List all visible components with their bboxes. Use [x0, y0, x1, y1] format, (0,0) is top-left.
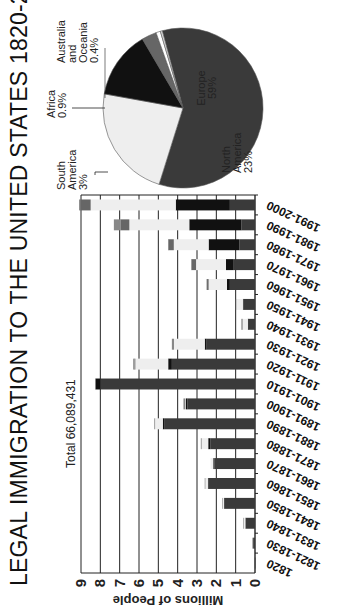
bar-segment-asia	[163, 418, 164, 429]
bar-segment-south-america	[80, 199, 90, 210]
y-tick-label: 3	[188, 579, 205, 587]
bar-segment-south-america	[192, 259, 196, 270]
bar-segment-south-america	[135, 359, 136, 370]
bar-segment-europe	[214, 458, 255, 469]
y-tick-label: 6	[130, 579, 147, 587]
bar-segment-other	[172, 339, 173, 350]
bar-segment-other	[252, 538, 253, 549]
bar-segment-europe	[211, 438, 255, 449]
bar-segment-asia	[213, 458, 214, 469]
bar-segment-asia	[208, 438, 210, 449]
bar-segment-europe	[245, 518, 255, 529]
bar-segment-other	[183, 398, 185, 409]
bar-segment-south-america	[201, 438, 202, 449]
bar-segment-south-america	[173, 339, 174, 350]
bar-segment-other	[79, 199, 80, 210]
bar-segment-asia	[208, 478, 209, 489]
bar-segment-north-america	[205, 478, 208, 489]
bar-segment-south-america	[154, 418, 155, 429]
bar-segment-europe	[224, 498, 255, 509]
bar-segment-south-america	[95, 379, 96, 390]
bar-segment-asia	[209, 239, 240, 250]
bar-segment-other	[205, 478, 206, 489]
bar-segment-europe	[100, 379, 255, 390]
bar-segment-north-america	[242, 319, 248, 330]
bar-segment-europe	[187, 398, 255, 409]
bar-segment-north-america	[185, 398, 186, 409]
bar-segment-south-america	[236, 299, 237, 310]
bar-segment-asia	[227, 279, 230, 290]
y-tick-label: 9	[72, 579, 89, 587]
y-tick-label: 0	[246, 579, 263, 587]
bar-segment-asia	[205, 339, 207, 350]
bar-segment-europe	[209, 478, 255, 489]
bar-segment-asia	[248, 319, 249, 330]
bar-segment-north-america	[211, 458, 214, 469]
pie-label-south-america: SouthAmerica3%	[55, 149, 89, 190]
y-tick-label: 1	[227, 579, 244, 587]
plot-area: 0123456789Millions of PeopleTotal 66,089…	[0, 0, 357, 608]
bar-segment-south-america	[168, 239, 173, 250]
bar-segment-europe	[248, 319, 255, 330]
bar-segment-north-america	[91, 199, 176, 210]
bar-segment-north-america	[174, 339, 205, 350]
bar-segment-europe	[207, 339, 255, 350]
bar-segment-other	[133, 359, 134, 370]
bar-segment-europe	[255, 558, 256, 569]
pie-label-africa: Africa0.9%	[45, 89, 68, 118]
bar-segment-europe	[240, 239, 255, 250]
bar-segment-europe	[234, 259, 255, 270]
bar-segment-asia	[176, 199, 230, 210]
pie-label-australia-oceania: AustraliaandOceania0.4%	[55, 19, 100, 63]
bar-segment-europe	[253, 538, 255, 549]
bar-segment-north-america	[209, 279, 227, 290]
bar-segment-other	[241, 319, 242, 330]
bar-segment-north-america	[129, 219, 189, 230]
bar-segment-asia	[226, 259, 234, 270]
total-label: Total 66,089,431	[64, 379, 78, 468]
y-tick-label: 8	[91, 579, 108, 587]
bar-segment-north-america	[201, 438, 208, 449]
bar-segment-north-america	[135, 359, 168, 370]
bar-segment-asia	[243, 299, 244, 310]
bar-segment-other	[243, 518, 244, 529]
y-tick-label: 7	[111, 579, 128, 587]
bar-segment-asia	[186, 398, 187, 409]
bar-segment-other	[222, 498, 223, 509]
bar-segment-north-america	[174, 239, 209, 250]
y-tick-label: 2	[207, 579, 224, 587]
bar-segment-north-america	[155, 418, 163, 429]
bar-segment-other	[191, 259, 192, 270]
bar-segment-other	[114, 219, 121, 230]
leader-line-south-america	[95, 172, 108, 175]
bar-segment-europe	[230, 279, 255, 290]
bar-segment-other	[207, 279, 208, 290]
bar-segment-europe	[243, 299, 255, 310]
y-tick-label: 5	[149, 579, 166, 587]
bar-segment-europe	[164, 418, 255, 429]
bar-segment-europe	[241, 219, 255, 230]
bar-segment-south-america	[120, 219, 129, 230]
bar-segment-asia	[189, 219, 241, 230]
y-axis-label: Millions of People	[113, 593, 224, 608]
bar-segment-europe	[230, 199, 255, 210]
y-tick-label: 4	[169, 578, 186, 587]
bar-segment-asia	[168, 359, 172, 370]
bar-segment-north-america	[223, 498, 225, 509]
bar-segment-other	[168, 239, 169, 250]
bar-segment-europe	[172, 359, 255, 370]
bar-segment-asia	[96, 379, 101, 390]
bar-segment-north-america	[196, 259, 226, 270]
bar-segment-north-america	[236, 299, 243, 310]
chart-stage: LEGAL IMMIGRATION TO THE UNITED STATES 1…	[0, 0, 357, 608]
chart-svg: 0123456789Millions of PeopleTotal 66,089…	[0, 0, 357, 608]
